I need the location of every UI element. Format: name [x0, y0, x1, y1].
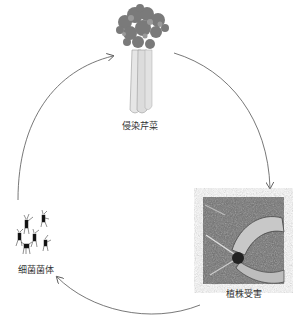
arrow-celery-to-damaged: [174, 53, 270, 188]
node-label-damaged: 植株受害: [226, 287, 262, 300]
cycle-arrows: [0, 0, 296, 330]
celery-image: [116, 4, 169, 113]
node-label-celery: 侵染芹菜: [122, 119, 158, 132]
disease-cycle-diagram: 侵染芹菜 植株受害 细菌菌体: [0, 0, 296, 330]
bacteria-image: [16, 210, 51, 254]
damaged-plant-image: [203, 197, 284, 284]
arrow-bacteria-to-celery: [18, 56, 113, 200]
node-label-bacteria: 细菌菌体: [18, 263, 54, 276]
arrow-damaged-to-bacteria: [57, 277, 200, 314]
